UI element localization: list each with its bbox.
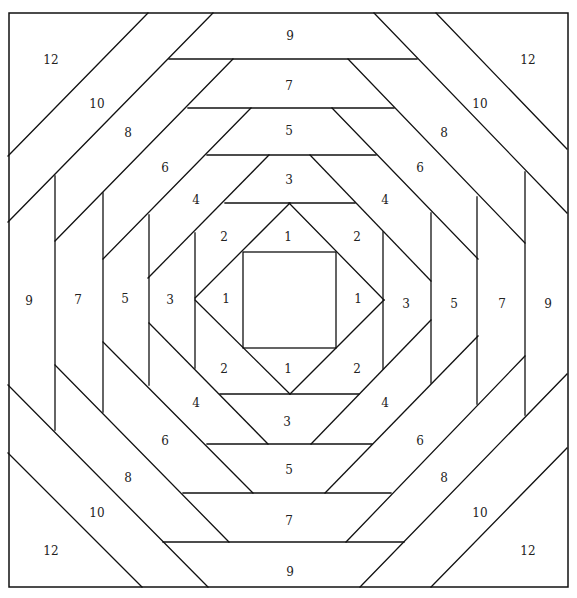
piece-label: 5 [285,124,293,138]
piece-label: 4 [381,396,389,410]
piece-label: 4 [192,396,200,410]
piece-label: 4 [381,193,389,207]
piece-number-labels: 1212121210101010888866664444222211119753… [25,29,552,579]
seam-line [149,323,268,444]
piece-label: 8 [440,126,448,140]
piece-label: 6 [416,434,424,448]
seam-line [8,453,142,587]
piece-label: 2 [220,362,228,376]
seam-line [436,13,567,149]
piece-label: 5 [450,297,458,311]
center-square [243,252,336,348]
piece-label: 12 [520,544,535,558]
seam-line [55,365,229,542]
piece-label: 1 [354,292,362,306]
seam-line [55,59,233,241]
piece-label: 6 [161,434,169,448]
piece-label: 10 [89,97,104,111]
piece-label: 1 [284,230,292,244]
piece-label: 7 [498,297,506,311]
piece-label: 9 [25,294,33,308]
piece-label: 1 [284,362,292,376]
seam-line [346,356,525,542]
piece-label: 3 [402,297,410,311]
piece-label: 8 [440,471,448,485]
piece-label: 2 [353,230,361,244]
seam-line [290,300,384,394]
seam-line [310,155,431,281]
seam-line [431,448,567,587]
piece-label: 7 [74,293,82,307]
piece-label: 9 [286,565,294,579]
piece-label: 3 [285,173,293,187]
piece-label: 8 [124,126,132,140]
piece-label: 2 [220,230,228,244]
piece-label: 10 [472,506,487,520]
piece-label: 7 [285,514,293,528]
piece-label: 1 [222,292,230,306]
piece-label: 5 [285,463,293,477]
piece-label: 9 [544,297,552,311]
piece-label: 12 [43,544,58,558]
piece-label: 6 [161,161,169,175]
piece-label: 12 [43,53,58,67]
piece-label: 3 [283,415,291,429]
piece-label: 3 [166,293,174,307]
piece-label: 2 [353,362,361,376]
pineapple-block-diagram: 1212121210101010888866664444222211119753… [0,0,577,598]
piece-label: 8 [124,471,132,485]
piece-label: 7 [285,79,293,93]
piece-label: 4 [192,193,200,207]
seam-line [8,13,213,222]
piece-label: 9 [286,29,294,43]
seam-line [325,336,478,493]
piece-label: 6 [416,161,424,175]
seam-line [8,385,208,587]
seam-line [374,13,567,213]
seam-line [311,320,431,444]
piece-label: 10 [89,506,104,520]
piece-label: 12 [520,53,535,67]
piece-label: 10 [472,97,487,111]
piece-label: 5 [121,292,129,306]
